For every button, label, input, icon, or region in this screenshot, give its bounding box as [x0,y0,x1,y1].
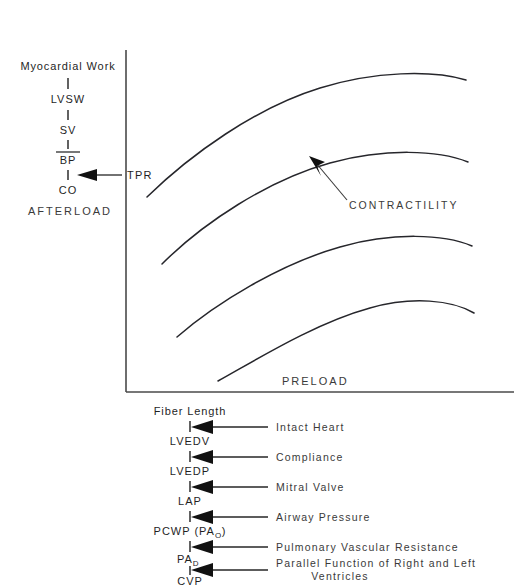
preload-arrow-6-label-line2: Ventricles [311,570,369,582]
preload-arrow-2-label: Compliance [276,451,343,463]
preload-arrow-4-label: Airway Pressure [276,511,370,523]
preload-arrow-4: Airway Pressure [191,510,370,524]
chain-item-myocardial-work: Myocardial Work [20,60,115,72]
figure-canvas: AFTERLOAD PRELOAD CONTRACTILITY Myocardi… [0,0,514,586]
frank-starling-curves [147,74,474,381]
preload-arrow-1: Intact Heart [191,420,345,434]
preload-chain: Fiber Length Intact Heart LVEDV Complian… [154,405,477,586]
preload-item-pad: PAD [177,553,199,568]
chain-item-bp: BP [60,154,77,166]
preload-arrow-3: Mitral Valve [191,480,344,494]
axes-group [126,50,514,392]
preload-arrow-4-head [191,510,213,524]
chain-item-lvsw: LVSW [51,93,85,105]
chain-item-co: CO [59,184,78,196]
afterload-chain: Myocardial Work LVSW SV BP CO TPR [20,60,152,196]
contractility-label: CONTRACTILITY [349,199,458,211]
preload-arrow-2: Compliance [191,450,343,464]
contractility-arrow-head [309,156,325,176]
preload-item-lvedp: LVEDP [170,465,210,477]
tpr-arrow-group: TPR [77,169,153,181]
preload-arrow-5-label: Pulmonary Vascular Resistance [276,541,459,553]
x-axis-label: PRELOAD [282,375,349,387]
preload-arrow-6-label-line1: Parallel Function of Right and Left [276,557,476,569]
preload-item-pcwp: PCWP (PAO) [154,525,227,540]
y-axis-label: AFTERLOAD [28,205,112,217]
preload-arrow-3-head [191,480,213,494]
preload-arrow-5: Pulmonary Vascular Resistance [191,540,459,554]
preload-arrow-1-label: Intact Heart [276,421,345,433]
preload-item-lap: LAP [178,495,202,507]
contractility-leader-line [316,163,347,200]
preload-item-lvedv: LVEDV [170,435,210,447]
preload-item-fiber-length: Fiber Length [154,405,227,417]
tpr-arrow-head [77,169,97,181]
tpr-label: TPR [127,169,153,181]
cardiac-function-diagram: AFTERLOAD PRELOAD CONTRACTILITY Myocardi… [0,0,514,586]
contractility-annotation: CONTRACTILITY [309,156,458,211]
curve-1 [147,74,466,197]
preload-arrow-2-head [191,450,213,464]
curve-3 [177,236,472,337]
preload-arrow-5-head [191,540,213,554]
chain-item-sv: SV [60,124,77,136]
preload-item-pad-main: PA [177,553,193,565]
preload-arrow-6: Parallel Function of Right and Left Vent… [191,557,476,582]
preload-arrow-3-label: Mitral Valve [276,481,344,493]
curve-4 [218,301,474,381]
preload-item-pcwp-subscript: O [215,531,222,540]
preload-item-pcwp-suffix: ) [222,525,227,537]
preload-arrow-1-head [191,420,213,434]
preload-item-pad-subscript: D [193,559,199,568]
preload-item-pcwp-main: PCWP (PA [154,525,215,537]
preload-item-cvp: CVP [177,575,203,586]
